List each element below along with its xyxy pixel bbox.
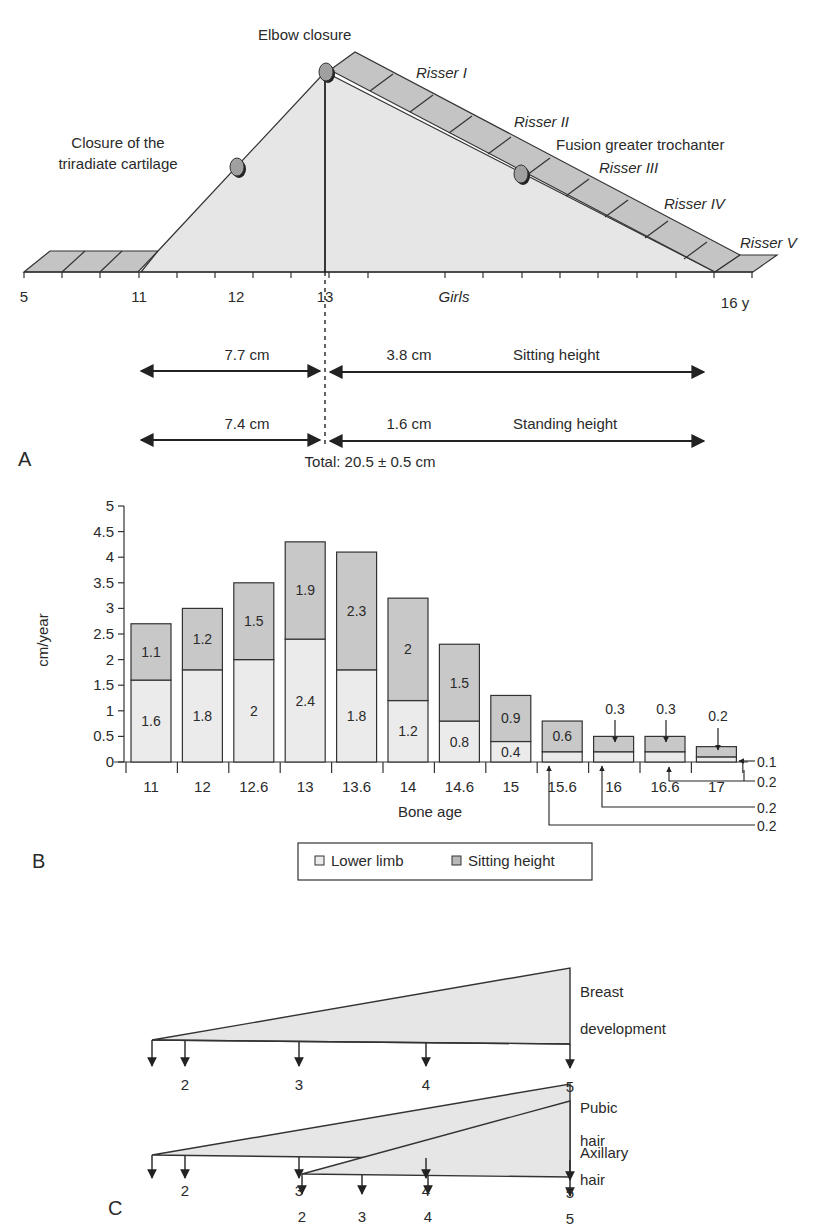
triradiate-node-icon	[230, 158, 244, 176]
sitting-before-value: 7.7 cm	[224, 346, 269, 363]
bar-sitting-value: 1.5	[244, 613, 264, 629]
panel-c-label: C	[108, 1197, 122, 1219]
x-tick-label: 14	[400, 778, 417, 795]
callout-17-lower: 0.1	[757, 754, 777, 770]
x-tick-label: 11	[143, 778, 159, 795]
y-tick-label: 3	[106, 599, 114, 616]
legend-sitting-height: Sitting height	[468, 852, 556, 869]
bar-lower-value: 1.2	[398, 723, 418, 739]
breast-stage-4: 4	[422, 1076, 430, 1093]
age-tick-13: 13	[317, 288, 334, 305]
pubic-title-1: Pubic	[580, 1099, 618, 1116]
standing-before-value: 7.4 cm	[224, 415, 269, 432]
bar-lower-value: 2.4	[295, 693, 315, 709]
pubic-stage-3: 3	[295, 1182, 303, 1199]
breast-stage-2: 2	[181, 1076, 189, 1093]
total-label: Total: 20.5 ± 0.5 cm	[305, 453, 436, 470]
x-tick-label: 12.6	[239, 778, 268, 795]
risser-5-label: Risser V	[740, 234, 799, 251]
y-axis-label: cm/year	[34, 613, 51, 666]
bar-sitting-value: 0.9	[501, 710, 521, 726]
growth-figure: Elbow closure Closure of the triradiate …	[0, 0, 828, 1230]
age-tick-5: 5	[20, 288, 28, 305]
y-tick-label: 4.5	[93, 523, 114, 540]
bar-sitting-value: 1.9	[295, 582, 315, 598]
triradiate-label-2: triradiate cartilage	[58, 155, 177, 172]
risser-1-label: Risser I	[416, 64, 467, 81]
risser-2-label: Risser II	[514, 113, 569, 130]
axillary-title-2: hair	[580, 1171, 605, 1188]
pubic-stage-2: 2	[181, 1182, 189, 1199]
y-tick-label: 3.5	[93, 574, 114, 591]
y-tick-label: 4	[106, 548, 114, 565]
axillary-stage-3: 3	[358, 1208, 366, 1225]
triradiate-label-1: Closure of the	[71, 134, 164, 151]
elbow-node-icon	[319, 63, 333, 81]
risser-4-label: Risser IV	[664, 195, 727, 212]
bar-sitting-height	[696, 747, 736, 757]
pubic-stage-5: 5	[566, 1184, 574, 1201]
x-tick-label: 12	[194, 778, 211, 795]
x-tick-label: 15	[502, 778, 519, 795]
x-tick-label: 15.6	[548, 778, 577, 795]
bar-lower-value: 1.6	[141, 713, 161, 729]
x-tick-label: 13.6	[342, 778, 371, 795]
legend-lower-limb: Lower limb	[331, 852, 404, 869]
panel-c: Breast development 2 3 4 5 Pubic hair 2 …	[108, 968, 667, 1227]
breast-title-1: Breast	[580, 983, 624, 1000]
age-tick-12: 12	[228, 288, 245, 305]
breast-title-2: development	[580, 1020, 667, 1037]
panel-b: 00.511.522.533.544.551.61.1111.81.21221.…	[32, 497, 777, 880]
bar-lower-value: 1.8	[193, 708, 213, 724]
elbow-closure-label: Elbow closure	[258, 26, 351, 43]
callout-16-lower: 0.2	[757, 800, 777, 816]
bar-sitting-value: 2.3	[347, 603, 367, 619]
y-tick-label: 0.5	[93, 727, 114, 744]
bar-lower-value: 1.8	[347, 708, 367, 724]
bar-sitting-height	[594, 736, 634, 751]
x-tick-label: 16	[605, 778, 622, 795]
x-tick-label: 13	[297, 778, 314, 795]
bar-chart: 00.511.522.533.544.551.61.1111.81.21221.…	[93, 497, 748, 795]
sitting-after-value: 3.8 cm	[386, 346, 431, 363]
axillary-title-1: Axillary	[580, 1144, 629, 1161]
sitting-height-label: Sitting height	[513, 346, 601, 363]
callout-16-6-sitting: 0.3	[656, 701, 676, 717]
x-tick-label: 14.6	[445, 778, 474, 795]
standing-after-value: 1.6 cm	[386, 415, 431, 432]
trochanter-node-icon	[514, 165, 528, 183]
panel-a-label: A	[18, 448, 32, 470]
y-tick-label: 2.5	[93, 625, 114, 642]
axillary-stage-5: 5	[566, 1210, 574, 1227]
legend-lower-limb-swatch-icon	[315, 856, 324, 865]
bar-sitting-value: 0.6	[552, 728, 572, 744]
bar-lower-value: 0.4	[501, 744, 521, 760]
callout-16-6-lower: 0.2	[757, 774, 777, 790]
trochanter-label: Fusion greater trochanter	[556, 136, 724, 153]
callout-17-sitting: 0.2	[708, 708, 728, 724]
legend-sitting-height-swatch-icon	[452, 856, 461, 865]
sex-label: Girls	[439, 288, 470, 305]
panel-b-label: B	[32, 850, 45, 872]
y-tick-label: 1.5	[93, 676, 114, 693]
bar-sitting-value: 1.1	[141, 644, 161, 660]
breast-stage-3: 3	[295, 1076, 303, 1093]
y-tick-label: 2	[106, 651, 114, 668]
age-tick-16: 16 y	[721, 294, 750, 311]
age-tick-11: 11	[131, 288, 147, 305]
bar-lower-value: 0.8	[450, 734, 470, 750]
axillary-stage-2: 2	[298, 1208, 306, 1225]
bar-lower-limb	[696, 757, 736, 762]
bar-sitting-value: 2	[404, 641, 412, 657]
bar-sitting-value: 1.5	[450, 675, 470, 691]
panel-a: Elbow closure Closure of the triradiate …	[18, 26, 799, 470]
callout-16-sitting: 0.3	[605, 701, 625, 717]
bar-sitting-height	[645, 736, 685, 751]
bar-lower-limb	[594, 752, 634, 762]
y-tick-label: 0	[106, 753, 114, 770]
bar-lower-value: 2	[250, 703, 258, 719]
x-axis-label: Bone age	[398, 803, 462, 820]
bar-lower-limb	[542, 752, 582, 762]
callout-15-6-lower: 0.2	[757, 818, 777, 834]
pubic-stage-4: 4	[422, 1182, 430, 1199]
